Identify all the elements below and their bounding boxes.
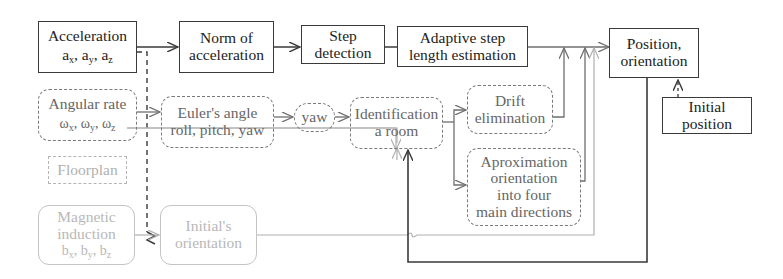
node-label: Aproximation [481,154,568,171]
separator: , [74,243,81,258]
subscript: z [107,249,111,260]
symbol: b [100,243,107,258]
node-norm-of-acceleration: Norm of acceleration [179,21,274,73]
node-yaw: yaw [294,103,335,132]
node-adaptive-step-length: Adaptive step length estimation [397,26,528,67]
node-label: induction [57,226,116,243]
node-acceleration: Acceleration ax, ay, az [38,21,137,73]
node-label: Step [329,28,357,45]
node-label: Initial [688,99,725,116]
node-label: acceleration [189,47,264,64]
symbol: ω [81,116,90,131]
node-label: main directions [476,204,572,221]
node-label: Acceleration [48,28,127,45]
node-angular-rate: Angular rate ωx, ωy, ωz [38,89,137,141]
node-label: Angular rate [49,96,127,113]
symbol: ω [59,116,68,131]
node-label: a room [375,123,418,140]
node-label: Drift [495,93,525,110]
node-label: Adaptive step [420,30,506,47]
node-magnetic-induction: Magnetic induction bx, by, bz [38,205,135,265]
node-label: elimination [475,110,546,127]
node-label: roll, pitch, yaw [171,122,265,139]
node-label: position [682,116,732,133]
node-eulers-angle: Euler's angle roll, pitch, yaw [161,96,274,148]
node-label: Norm of [200,30,253,47]
node-label: Floorplan [57,162,117,179]
node-label: into four [497,187,551,204]
node-position-orientation: Position, orientation [609,28,699,78]
node-label: length estimation [409,47,516,64]
subscript: z [108,54,112,65]
node-floorplan: Floorplan [48,156,127,184]
symbol: b [62,243,69,258]
node-step-detection: Step detection [301,25,385,64]
node-drift-elimination: Drift elimination [467,85,553,134]
node-label: Magnetic [57,209,116,226]
node-formula: ax, ay, az [62,47,113,66]
subscript: z [111,122,115,133]
node-label: detection [315,45,372,62]
node-initials-orientation: Initial's orientation [160,205,257,265]
node-label: Position, [627,36,682,53]
node-identification-room: Identification a room [350,97,443,149]
node-label: orientation [490,170,557,187]
flow-diagram: Acceleration ax, ay, az Norm of accelera… [0,0,783,279]
symbol: a [82,46,89,63]
node-approximation-orientation: Aproximation orientation into four main … [467,148,581,226]
node-label: Initial's [186,218,232,235]
node-label: Euler's angle [178,105,258,122]
node-label: yaw [302,109,328,126]
node-initial-position: Initial position [662,97,752,134]
symbol: b [81,243,88,258]
node-label: Identification [355,106,439,123]
node-formula: bx, by, bz [62,243,111,261]
separator: , [93,243,100,258]
node-label: orientation [175,235,242,252]
node-label: orientation [620,53,687,70]
separator: , [95,116,102,131]
node-formula: ωx, ωy, ωz [59,116,115,134]
separator: , [74,116,81,131]
symbol: ω [102,116,111,131]
separator: , [74,46,82,63]
